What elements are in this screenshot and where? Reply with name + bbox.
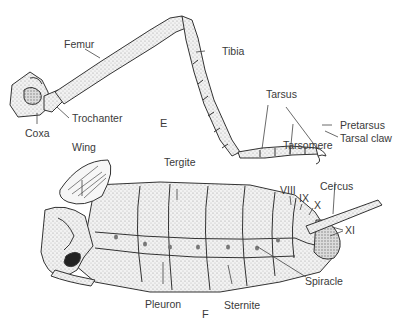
panel-label-f: F [202, 309, 209, 320]
label-ix: IX [299, 193, 309, 204]
label-viii: VIII [280, 185, 296, 196]
label-sternite: Sternite [224, 300, 260, 311]
label-tergite: Tergite [164, 157, 196, 168]
label-pretarsus: Pretarsus [340, 120, 385, 131]
label-trochanter: Trochanter [72, 113, 122, 124]
label-pleuron: Pleuron [145, 299, 181, 310]
label-femur: Femur [64, 39, 94, 50]
label-x: X [314, 200, 321, 211]
label-coxa: Coxa [25, 128, 50, 139]
label-tarsus: Tarsus [266, 89, 297, 100]
label-wing: Wing [72, 142, 96, 153]
label-tibia: Tibia [222, 46, 244, 57]
label-cercus: Cercus [320, 181, 353, 192]
label-xi: XI [345, 225, 355, 236]
label-tarsomere: Tarsomere [283, 140, 333, 151]
label-tarsal-claw: Tarsal claw [340, 133, 392, 144]
panel-label-e: E [160, 118, 167, 129]
label-spiracle: Spiracle [305, 276, 343, 287]
